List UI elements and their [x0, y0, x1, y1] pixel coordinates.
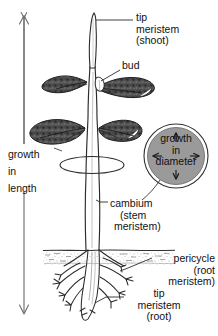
- shoot-tip-meristem: [89, 13, 96, 68]
- label-tip-meristem-root-line1: tip: [120, 288, 198, 300]
- label-bud-line1: bud: [122, 60, 140, 72]
- label-pericycle-line3: meristem): [155, 276, 215, 288]
- label-cambium-line3: meristem): [110, 221, 161, 233]
- label-cambium: cambium (stem meristem): [110, 198, 161, 233]
- label-growth-in-diameter: growth in diameter: [141, 133, 211, 168]
- label-tip-meristem-shoot-line3: (shoot): [136, 35, 179, 47]
- label-bud: bud: [122, 60, 140, 72]
- label-cambium-line1: cambium: [110, 198, 161, 210]
- label-pericycle: pericycle (root meristem): [155, 253, 215, 288]
- label-tip-meristem-root: tip meristem (root): [120, 288, 198, 323]
- label-growth-in-diameter-line3: diameter: [141, 156, 211, 168]
- plant-growth-diagram: tip meristem (shoot) bud growth in lengt…: [0, 0, 218, 336]
- label-tip-meristem-root-line3: (root): [120, 311, 198, 323]
- label-growth-in-length-line3: length: [8, 180, 40, 197]
- label-growth-in-length-line1: growth: [8, 146, 40, 163]
- label-tip-meristem-shoot-line1: tip: [136, 12, 179, 24]
- label-growth-in-diameter-line1: growth: [141, 133, 211, 145]
- bud: [95, 77, 104, 91]
- label-growth-in-length: growth in length: [8, 146, 40, 197]
- label-tip-meristem-shoot: tip meristem (shoot): [136, 12, 179, 47]
- label-growth-in-length-line2: in: [8, 163, 40, 180]
- label-pericycle-line1: pericycle: [155, 253, 215, 265]
- stem: [85, 66, 100, 250]
